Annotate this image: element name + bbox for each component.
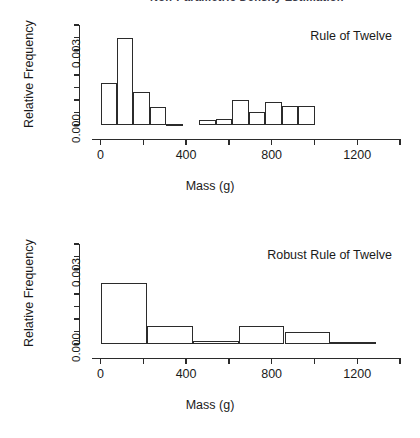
y-tick [74,243,79,244]
x-axis-line [92,358,400,359]
x-tick [357,358,358,364]
x-tick-label: 0 [71,148,131,162]
x-tick [228,358,229,364]
histogram-bar [249,112,265,125]
histogram-bar [101,283,147,344]
histogram-bar [147,326,193,344]
y-tick [74,293,79,294]
x-tick [314,139,315,145]
histogram-bar [166,124,182,126]
histogram-bar [265,102,281,125]
y-tick-label: 0.003 [70,39,82,68]
x-tick-label: 1200 [327,148,387,162]
x-tick-label: 1200 [327,367,387,381]
histogram-bar [330,342,376,344]
chart-panel-robust-rule-of-twelve: 0.0000.003Relative Frequency04008001200M… [0,219,420,438]
y-tick [74,306,79,307]
histogram-bar [150,107,166,125]
histogram-bar [101,83,117,125]
y-tick [74,37,79,38]
chart-title: Robust Rule of Twelve [267,248,392,262]
x-tick [314,358,315,364]
y-tick [74,24,79,25]
histogram-bar [285,332,331,344]
y-tick [74,112,79,113]
histogram-bar [193,341,239,344]
x-axis-label: Mass (g) [0,398,420,412]
y-axis-label: Relative Frequency [22,239,36,347]
y-tick [74,74,79,75]
x-axis-label: Mass (g) [0,179,420,193]
chart-title: Rule of Twelve [310,29,392,43]
x-tick [357,139,358,145]
x-tick [399,358,400,364]
x-tick [399,139,400,145]
x-tick [100,139,101,145]
x-tick-label: 400 [156,367,216,381]
histogram-bar [282,106,298,125]
histogram-bar [117,38,133,125]
x-tick [228,139,229,145]
x-tick-label: 0 [71,367,131,381]
histogram-bar [216,119,232,125]
x-tick-label: 400 [156,148,216,162]
x-tick [143,139,144,145]
x-tick [271,358,272,364]
histogram-bar [298,106,314,125]
y-tick-label: 0.000 [70,114,82,143]
x-tick-label: 800 [242,367,302,381]
chart-panel-rule-of-twelve: 0.0000.003Relative Frequency04008001200M… [0,0,420,219]
y-tick [74,318,79,319]
histogram-bar [133,92,149,125]
histogram-bar [199,120,215,126]
y-tick [74,87,79,88]
y-tick [74,331,79,332]
figure-page: Non-Parametric Density Estimation 0.0000… [0,0,420,438]
x-tick [185,358,186,364]
histogram-bar [232,100,248,126]
y-tick-label: 0.000 [70,333,82,362]
y-axis-label: Relative Frequency [22,20,36,128]
y-tick [74,256,79,257]
y-tick [74,99,79,100]
x-tick [143,358,144,364]
y-tick-label: 0.003 [70,258,82,287]
x-axis-line [92,139,400,140]
x-tick-label: 800 [242,148,302,162]
x-tick [185,139,186,145]
x-tick [271,139,272,145]
x-tick [100,358,101,364]
histogram-bar [239,326,285,345]
